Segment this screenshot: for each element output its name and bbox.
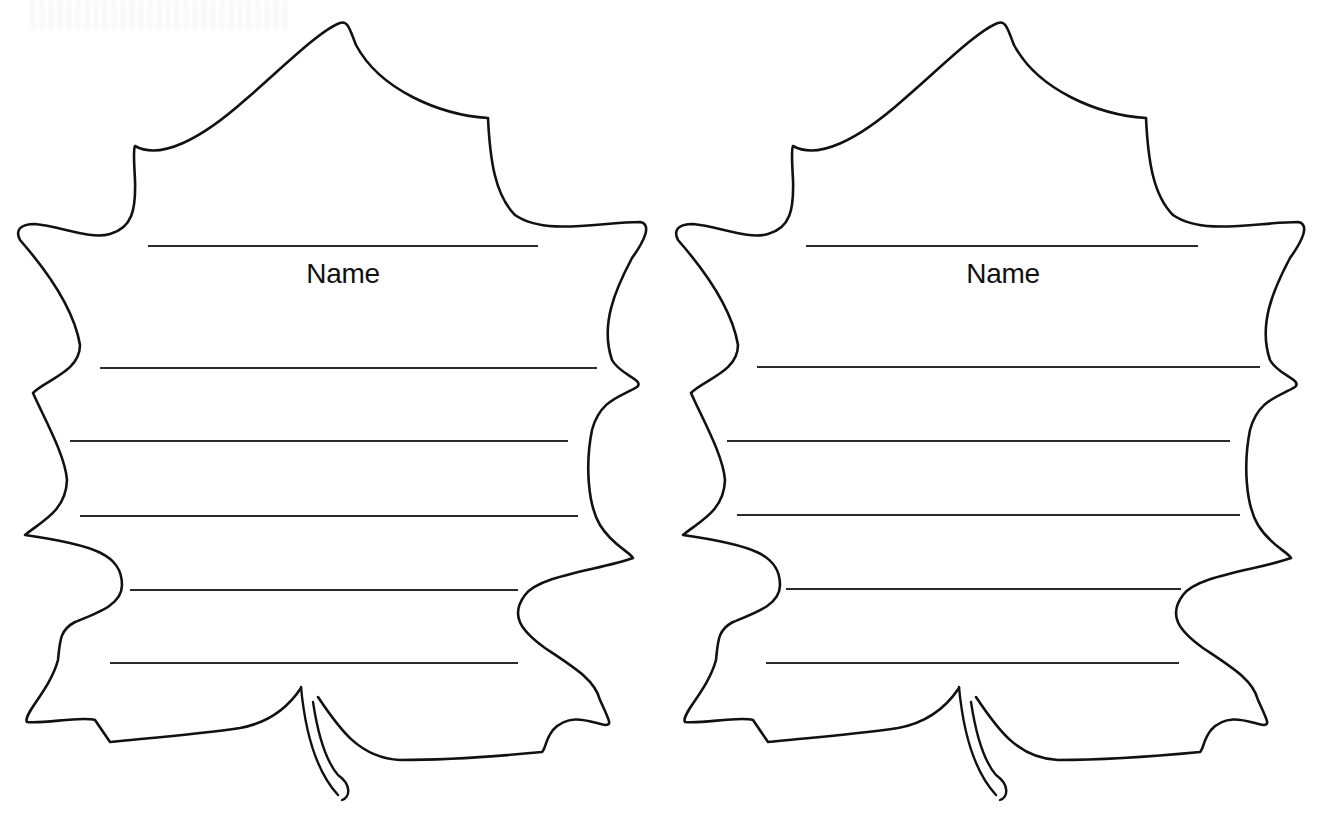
writing-line-2[interactable] — [727, 440, 1230, 442]
writing-line-5[interactable] — [110, 662, 518, 664]
maple-leaf-outline-icon — [0, 0, 661, 821]
name-line[interactable] — [148, 245, 538, 247]
name-line[interactable] — [806, 245, 1198, 247]
leaf-card-left: Name — [0, 0, 661, 821]
maple-leaf-outline-icon — [658, 0, 1319, 821]
writing-line-4[interactable] — [786, 588, 1181, 590]
name-label: Name — [903, 258, 1103, 290]
writing-line-3[interactable] — [737, 514, 1240, 516]
name-label: Name — [243, 258, 443, 290]
writing-line-1[interactable] — [757, 366, 1260, 368]
writing-line-2[interactable] — [70, 440, 568, 442]
leaf-writing-worksheet: Name Name — [0, 0, 1322, 821]
writing-line-1[interactable] — [100, 367, 597, 369]
writing-line-3[interactable] — [80, 515, 578, 517]
writing-line-5[interactable] — [766, 662, 1179, 664]
writing-line-4[interactable] — [130, 589, 518, 591]
leaf-card-right: Name — [658, 0, 1319, 821]
